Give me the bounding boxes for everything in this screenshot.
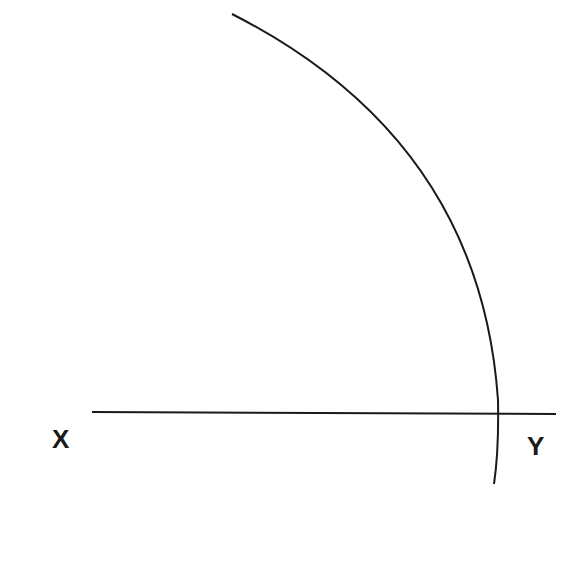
label-y: Y [527,431,544,461]
label-x: X [52,424,70,454]
line-xy [92,412,556,414]
geometry-diagram: X Y [0,0,581,574]
